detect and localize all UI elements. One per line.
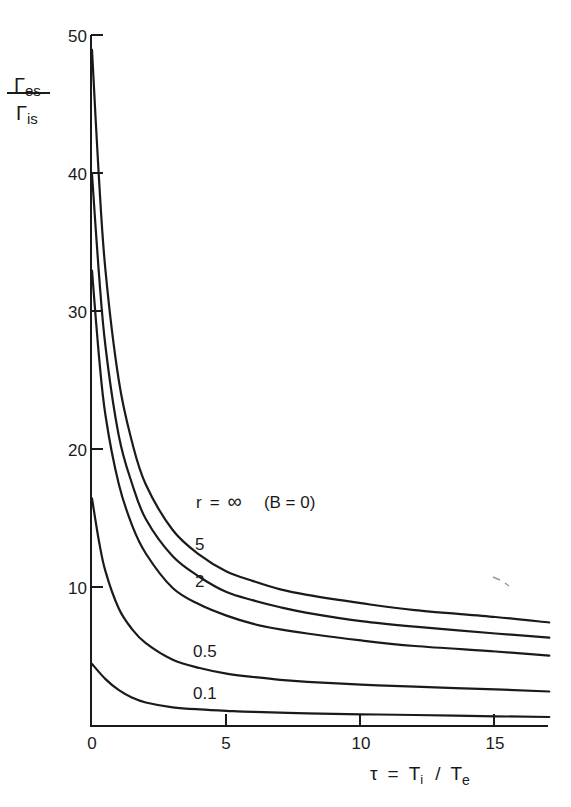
svg-text:r=∞(B = 0): r=∞(B = 0)	[196, 490, 315, 512]
x-tick-label-10: 10	[352, 734, 371, 753]
curve-series-3	[92, 498, 549, 691]
y-tick-label-20: 20	[68, 441, 87, 460]
x-tick-label-0: 0	[87, 734, 96, 753]
y-tick-label-40: 40	[68, 165, 87, 184]
curve-label-0-1: 0.1	[193, 684, 217, 703]
chart-plot: 50 40 30 20 10 0 5 10 15 Γes Γis τ=Ti/Te…	[0, 0, 571, 807]
x-tick-label-15: 15	[486, 734, 505, 753]
curves	[92, 50, 549, 717]
curve-label-5: 5	[195, 535, 204, 554]
curve-series-1	[92, 174, 549, 638]
curve-label-2: 2	[195, 572, 204, 591]
y-tick-label-10: 10	[68, 579, 87, 598]
x-tick-label-5: 5	[221, 734, 230, 753]
y-axis-label: Γes Γis	[7, 74, 50, 127]
y-tick-label-30: 30	[68, 303, 87, 322]
curve-label-0-5: 0.5	[193, 642, 217, 661]
curve-series-0	[92, 50, 549, 623]
svg-text:Γes: Γes	[14, 74, 41, 99]
curve-series-4	[92, 664, 549, 717]
svg-text:Γis: Γis	[16, 102, 38, 127]
svg-text:τ=Ti/Te: τ=Ti/Te	[370, 763, 470, 788]
y-tick-label-50: 50	[68, 27, 87, 46]
x-axis-label: τ=Ti/Te	[370, 763, 470, 788]
scan-speck	[493, 577, 509, 586]
curve-label-r-infinity: r=∞(B = 0)	[196, 490, 315, 512]
